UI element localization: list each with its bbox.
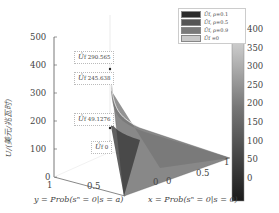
z-tick: 100 bbox=[30, 145, 46, 154]
colorbar-tick: 300 bbox=[247, 62, 263, 71]
legend-item: Ūf, ρ=0.5 bbox=[181, 18, 243, 26]
colorbar-tick: 400 bbox=[247, 25, 263, 34]
annotation-box: Ûf 49.1276 bbox=[74, 113, 114, 126]
z-tick: 400 bbox=[30, 61, 46, 70]
legend-swatch bbox=[181, 11, 201, 18]
annotation-box: Ûf 290.565 bbox=[74, 51, 114, 64]
legend-swatch bbox=[181, 35, 201, 42]
legend-item: Ūf, ρ=0.1 bbox=[181, 10, 243, 18]
y-tick: 0.5 bbox=[87, 182, 101, 191]
legend-item: Ūf, ρ=0.9 bbox=[181, 26, 243, 34]
colorbar-tick: 200 bbox=[247, 99, 263, 108]
x-tick: 0.5 bbox=[196, 169, 210, 178]
colorbar-tick: 250 bbox=[247, 81, 263, 90]
colorbar-tick: 50 bbox=[247, 155, 258, 164]
colorbar-tick: 0 bbox=[247, 174, 252, 183]
annotation-box: Ûf 0 bbox=[91, 141, 112, 154]
x-axis-label: x = Prob(sⁿ = 0|s = 0) bbox=[148, 195, 238, 204]
colorbar-tick: 150 bbox=[247, 118, 263, 127]
annotation-box: Ûf 245.638 bbox=[74, 72, 114, 85]
legend-item: Ūf =0 bbox=[181, 34, 243, 42]
colorbar-tick: 350 bbox=[247, 44, 263, 53]
legend: Ūf, ρ=0.1 Ūf, ρ=0.5 Ūf, ρ=0.9 Ūf =0 bbox=[178, 8, 246, 44]
legend-swatch bbox=[181, 27, 201, 34]
z-tick: 500 bbox=[30, 33, 46, 42]
z-tick: 200 bbox=[30, 117, 46, 126]
x-tick: 1 bbox=[224, 158, 229, 167]
y-axis-label: y = Prob(sⁿ = 0|s = a) bbox=[34, 195, 123, 204]
x-tick: 0 bbox=[166, 177, 171, 186]
colorbar-tick: 100 bbox=[247, 137, 263, 146]
legend-swatch bbox=[181, 19, 201, 26]
z-axis-label: U/(美元/兆瓦时) bbox=[2, 68, 14, 188]
y-tick: 1 bbox=[47, 181, 52, 190]
z-tick: 300 bbox=[30, 89, 46, 98]
y-tick: 0 bbox=[153, 178, 158, 187]
